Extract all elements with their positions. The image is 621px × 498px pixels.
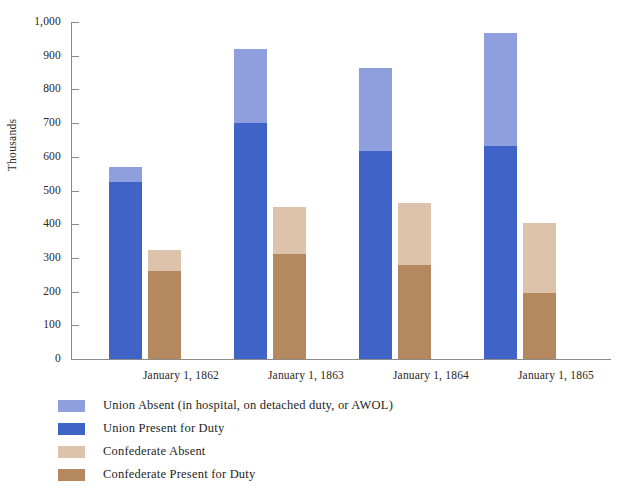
bar-segment-absent[interactable] (398, 203, 431, 265)
bar-segment-present[interactable] (234, 123, 267, 359)
y-axis-tick-mark (72, 258, 79, 259)
bar-union[interactable] (484, 33, 517, 359)
legend-item-label: Confederate Present for Duty (103, 465, 255, 484)
y-axis-tick-mark (72, 191, 79, 192)
y-axis-tick-label: 1,000 (1, 16, 61, 28)
legend-item[interactable]: Confederate Absent (58, 442, 578, 465)
bar-confederate[interactable] (523, 223, 556, 359)
bar-chart-figure: 1,0009008007006005004003002001000 Januar… (0, 0, 621, 498)
y-axis-tick-mark (72, 123, 79, 124)
bar-segment-present[interactable] (484, 146, 517, 359)
legend-item-label: Union Absent (in hospital, on detached d… (103, 396, 393, 415)
y-axis-tick-mark (72, 325, 79, 326)
bar-segment-absent[interactable] (523, 223, 556, 293)
legend-color-swatch (58, 446, 85, 458)
y-axis-tick-label: 100 (1, 319, 61, 331)
y-axis-tick-mark (72, 359, 79, 360)
bar-union[interactable] (234, 49, 267, 359)
legend-color-swatch (58, 400, 85, 412)
y-axis-tick-mark (72, 224, 79, 225)
bar-segment-absent[interactable] (484, 33, 517, 146)
y-axis-tick-mark (72, 22, 79, 23)
bar-confederate[interactable] (398, 203, 431, 359)
bar-segment-present[interactable] (398, 265, 431, 359)
legend-color-swatch (58, 469, 85, 481)
bar-segment-present[interactable] (523, 293, 556, 359)
bar-confederate[interactable] (273, 207, 306, 359)
legend-item-label: Confederate Absent (103, 442, 206, 461)
y-axis-tick-label: 400 (1, 218, 61, 230)
bar-group (234, 22, 306, 359)
bar-segment-present[interactable] (148, 271, 181, 359)
legend-color-swatch (58, 423, 85, 435)
bar-segment-absent[interactable] (109, 167, 142, 182)
legend-item[interactable]: Union Absent (in hospital, on detached d… (58, 396, 578, 419)
y-axis-tick-label: 900 (1, 50, 61, 62)
y-axis-tick-label: 0 (1, 353, 61, 365)
y-axis-tick-mark (72, 292, 79, 293)
bar-segment-absent[interactable] (359, 68, 392, 151)
legend-item-label: Union Present for Duty (103, 419, 224, 438)
y-axis-tick-mark (72, 56, 79, 57)
legend-item[interactable]: Confederate Present for Duty (58, 465, 578, 488)
bar-segment-present[interactable] (109, 182, 142, 359)
bar-group (359, 22, 431, 359)
legend-item[interactable]: Union Present for Duty (58, 419, 578, 442)
bar-union[interactable] (359, 68, 392, 360)
y-axis-tick-label: 300 (1, 252, 61, 264)
bar-segment-present[interactable] (273, 254, 306, 359)
bar-union[interactable] (109, 167, 142, 359)
bar-confederate[interactable] (148, 249, 181, 359)
chart-legend: Union Absent (in hospital, on detached d… (58, 396, 578, 488)
bar-segment-absent[interactable] (273, 207, 306, 254)
bar-segment-absent[interactable] (234, 49, 267, 123)
bar-group (484, 22, 556, 359)
y-axis-tick-mark (72, 157, 79, 158)
x-axis-category-label: January 1, 1865 (476, 369, 621, 381)
y-axis-tick-label: 200 (1, 286, 61, 298)
bar-group (109, 22, 181, 359)
bar-segment-absent[interactable] (148, 250, 181, 271)
y-axis-title: Thousands (6, 85, 18, 205)
plot-area: 1,0009008007006005004003002001000 Januar… (71, 22, 611, 359)
y-axis-tick-mark (72, 89, 79, 90)
x-axis-line (71, 359, 611, 360)
bar-segment-present[interactable] (359, 151, 392, 359)
